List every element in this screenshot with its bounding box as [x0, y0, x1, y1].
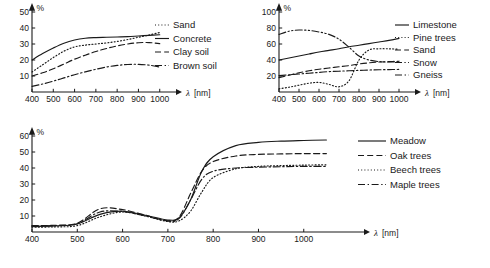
svg-text:1000: 1000 [390, 94, 409, 104]
chart-soils: 1020304050%4005006007008009001000λ[nm]Sa… [0, 0, 245, 118]
svg-text:[nm]: [nm] [382, 228, 399, 238]
svg-text:50: 50 [20, 7, 30, 17]
svg-text:800: 800 [206, 234, 220, 244]
svg-text:[nm]: [nm] [433, 88, 450, 98]
svg-text:600: 600 [312, 94, 326, 104]
svg-text:900: 900 [372, 94, 386, 104]
svg-text:%: % [37, 127, 45, 137]
legend-label-clay-soil: Clay soil [173, 46, 209, 57]
svg-text:60: 60 [267, 39, 277, 49]
svg-text:500: 500 [46, 94, 60, 104]
legend-label-limestone: Limestone [413, 19, 457, 30]
legend-label-sand: Sand [413, 44, 435, 55]
chart-materials-canvas: 20406080100%4005006007008009001000λ[nm]L… [243, 0, 490, 118]
svg-text:%: % [37, 3, 45, 13]
svg-text:1000: 1000 [294, 234, 313, 244]
svg-text:10: 10 [20, 211, 30, 221]
svg-text:900: 900 [131, 94, 145, 104]
svg-text:1000: 1000 [150, 94, 169, 104]
svg-text:[nm]: [nm] [194, 88, 211, 98]
chart-vegetation-canvas: 102030405060%4005006007008009001000λ[nm]… [0, 122, 490, 268]
legend-label-oak-trees: Oak trees [390, 150, 431, 161]
curve-brown-soil [32, 64, 160, 86]
spectral-reflectance-figure: 1020304050%4005006007008009001000λ[nm]Sa… [0, 0, 490, 268]
svg-text:%: % [284, 3, 292, 13]
chart-materials: 20406080100%4005006007008009001000λ[nm]L… [243, 0, 490, 118]
svg-text:20: 20 [267, 71, 277, 81]
legend-label-concrete: Concrete [173, 33, 212, 44]
svg-text:80: 80 [267, 23, 277, 33]
svg-text:30: 30 [20, 39, 30, 49]
svg-text:λ: λ [373, 228, 378, 238]
svg-text:λ: λ [185, 88, 190, 98]
svg-text:400: 400 [25, 234, 39, 244]
curve-sand [32, 32, 160, 72]
svg-text:700: 700 [161, 234, 175, 244]
curve-pine-trees [279, 49, 399, 89]
svg-text:500: 500 [70, 234, 84, 244]
svg-text:500: 500 [292, 94, 306, 104]
legend-label-snow: Snow [413, 57, 437, 68]
svg-text:20: 20 [20, 55, 30, 65]
svg-text:40: 40 [20, 23, 30, 33]
svg-text:400: 400 [272, 94, 286, 104]
curve-snow [279, 30, 399, 62]
svg-text:50: 50 [20, 147, 30, 157]
svg-text:700: 700 [89, 94, 103, 104]
legend-label-maple-trees: Maple trees [390, 179, 440, 190]
curve-gneiss [279, 69, 399, 75]
svg-text:600: 600 [115, 234, 129, 244]
legend-label-sand: Sand [173, 19, 195, 30]
svg-text:30: 30 [20, 179, 30, 189]
curve-meadow [32, 140, 326, 226]
chart-vegetation: 102030405060%4005006007008009001000λ[nm]… [0, 122, 490, 268]
svg-text:20: 20 [20, 195, 30, 205]
legend-label-beech-trees: Beech trees [390, 164, 441, 175]
legend-label-pine-trees: Pine trees [413, 32, 456, 43]
svg-text:700: 700 [332, 94, 346, 104]
chart-soils-canvas: 1020304050%4005006007008009001000λ[nm]Sa… [0, 0, 245, 118]
svg-text:400: 400 [25, 94, 39, 104]
legend-label-brown-soil: Brown soil [173, 60, 217, 71]
svg-text:λ: λ [424, 88, 429, 98]
curve-concrete [32, 35, 160, 60]
svg-text:40: 40 [20, 163, 30, 173]
svg-text:60: 60 [20, 131, 30, 141]
svg-text:40: 40 [267, 55, 277, 65]
svg-text:800: 800 [110, 94, 124, 104]
legend-label-meadow: Meadow [390, 135, 426, 146]
svg-text:900: 900 [251, 234, 265, 244]
svg-text:800: 800 [352, 94, 366, 104]
legend-label-gneiss: Gneiss [413, 69, 443, 80]
svg-text:600: 600 [67, 94, 81, 104]
svg-text:10: 10 [20, 71, 30, 81]
curve-oak-trees [32, 154, 326, 226]
svg-text:100: 100 [262, 7, 276, 17]
